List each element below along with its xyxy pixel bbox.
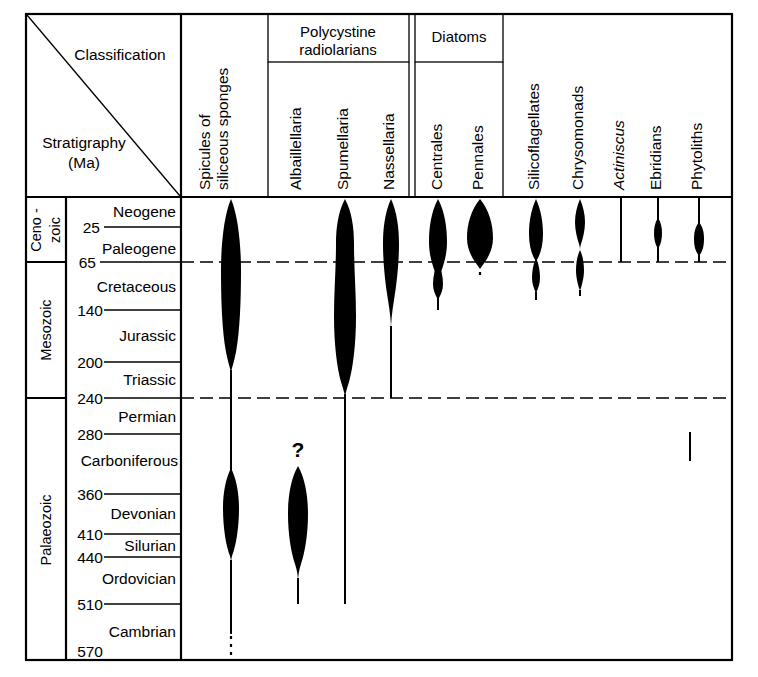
plot-age-gridlines <box>181 262 732 398</box>
stratigraphy-axis: Ceno - zoic Mesozoic Palaeozoic 25 65 14… <box>26 197 181 660</box>
taxa-headers: Spicules of siliceous sponges Albaillell… <box>196 67 705 191</box>
range-phytoliths <box>690 198 704 461</box>
period-label-jurassic: Jurassic <box>119 327 176 344</box>
group-header-diatoms: Diatoms <box>415 14 503 62</box>
albaillellaria-query-annotation: ? <box>292 438 305 461</box>
period-label-cambrian: Cambrian <box>109 623 176 640</box>
age-tick-360: 360 <box>77 486 103 503</box>
age-tick-440: 440 <box>77 549 103 566</box>
taxa-header-pennales: Pennales <box>469 125 486 190</box>
corner-classification-label: Classification <box>74 46 165 63</box>
taxa-header-spicules-line1: Spicules of <box>196 113 213 190</box>
age-tick-280: 280 <box>77 426 103 443</box>
taxa-header-nassellaria: Nassellaria <box>380 113 397 190</box>
period-label-neogene: Neogene <box>113 203 176 220</box>
period-label-cretaceous: Cretaceous <box>97 278 177 295</box>
period-label-permian: Permian <box>118 408 176 425</box>
taxa-header-spumellaria: Spumellaria <box>334 108 351 190</box>
period-label-triassic: Triassic <box>123 371 176 388</box>
corner-legend-box: Classification Stratigraphy (Ma) <box>27 15 180 196</box>
period-label-paleogene: Paleogene <box>102 240 176 257</box>
period-label-ordovician: Ordovician <box>102 570 176 587</box>
era-label-palaeozoic: Palaeozoic <box>38 495 54 566</box>
taxa-header-ebridians: Ebridians <box>647 125 664 190</box>
range-albaillellaria: ? <box>288 438 308 604</box>
group-header-polycystine: Polycystine radiolarians <box>268 14 409 62</box>
era-label-cenozoic-line1: Ceno - <box>28 208 44 252</box>
corner-stratigraphy-unit: (Ma) <box>68 154 100 171</box>
range-nassellaria <box>383 199 399 398</box>
period-label-carboniferous: Carboniferous <box>81 452 179 469</box>
range-spicules-of-siliceous-sponges <box>221 199 241 656</box>
group-header-polycystine-line2: radiolarians <box>299 41 377 58</box>
taxa-header-actiniscus: Actiniscus <box>610 120 627 191</box>
range-shapes: ? <box>221 198 704 656</box>
taxa-header-centrales: Centrales <box>428 123 445 190</box>
era-label-mesozoic: Mesozoic <box>38 299 54 360</box>
age-tick-140: 140 <box>77 302 103 319</box>
taxa-header-spicules-line2: siliceous sponges <box>214 67 231 190</box>
age-tick-410: 410 <box>77 526 103 543</box>
period-label-devonian: Devonian <box>111 505 177 522</box>
age-tick-25: 25 <box>83 219 100 236</box>
range-ebridians <box>654 198 662 262</box>
range-spumellaria <box>334 199 356 604</box>
corner-stratigraphy-label: Stratigraphy <box>42 134 126 151</box>
age-tick-570: 570 <box>77 643 103 660</box>
age-tick-510: 510 <box>77 596 103 613</box>
taxa-header-chrysomonads: Chrysomonads <box>569 86 586 190</box>
range-chart-figure: Classification Stratigraphy (Ma) Polycys… <box>0 0 758 677</box>
taxa-header-albaillellaria: Albaillellaria <box>287 107 304 190</box>
group-header-diatoms-line1: Diatoms <box>431 28 486 45</box>
age-tick-240: 240 <box>77 390 103 407</box>
range-centrales <box>429 199 447 310</box>
range-pennales <box>467 199 493 275</box>
range-silicoflagellates <box>529 199 543 300</box>
age-tick-200: 200 <box>77 354 103 371</box>
era-label-cenozoic-line2: zoic <box>47 217 63 243</box>
taxa-header-silicoflagellates: Silicoflagellates <box>525 83 542 190</box>
taxa-header-phytoliths: Phytoliths <box>688 123 705 190</box>
age-tick-65: 65 <box>79 254 96 271</box>
group-header-polycystine-line1: Polycystine <box>300 23 376 40</box>
range-chrysomonads <box>575 199 585 296</box>
period-label-silurian: Silurian <box>124 537 176 554</box>
